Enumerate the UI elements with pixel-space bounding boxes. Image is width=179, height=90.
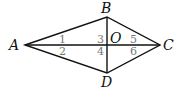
label-b: B bbox=[100, 0, 111, 16]
angle-6: 6 bbox=[130, 45, 137, 58]
label-o: O bbox=[110, 30, 122, 46]
label-a: A bbox=[7, 37, 19, 53]
label-c: C bbox=[163, 37, 174, 53]
kite-diagram: A B C D O 1 2 3 4 5 6 bbox=[0, 0, 179, 90]
angle-4: 4 bbox=[97, 45, 104, 58]
angle-2: 2 bbox=[59, 45, 66, 58]
label-d: D bbox=[100, 74, 112, 90]
